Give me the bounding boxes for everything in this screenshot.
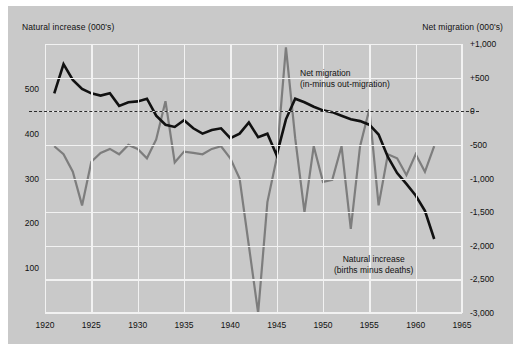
left-tick-label: 100	[11, 264, 39, 273]
gridline-vertical	[230, 44, 231, 313]
right-tick-label: -1,000	[470, 174, 494, 183]
right-tick-label: -3,000	[470, 309, 494, 318]
gridline-vertical	[416, 44, 417, 313]
gridline-horizontal	[45, 313, 462, 314]
right-tick-label: -1,500	[470, 208, 494, 217]
right-tick-label: -2,000	[470, 242, 494, 251]
gridline-vertical	[45, 44, 46, 313]
gridline-horizontal	[45, 246, 462, 247]
x-tick-label: 1960	[406, 321, 425, 330]
gridline-horizontal	[45, 212, 462, 213]
left-axis-title: Natural increase (000's)	[22, 22, 114, 32]
annotation-natural-increase-line1: Natural increase	[334, 254, 413, 265]
annotation-natural-increase: Natural increase (births minus deaths)	[334, 254, 413, 277]
x-tick-label: 1930	[128, 321, 147, 330]
gridline-horizontal	[45, 145, 462, 146]
x-tick-label: 1965	[453, 321, 472, 330]
right-tick-label: +1,000	[470, 40, 496, 49]
annotation-net-migration-line1: Net migration	[300, 68, 390, 79]
left-tick-label: 300	[11, 174, 39, 183]
right-tick-label: +500	[470, 73, 489, 82]
right-tick-label: -2,500	[470, 275, 494, 284]
annotation-natural-increase-line2: (births minus deaths)	[334, 265, 413, 276]
gridline-vertical	[138, 44, 139, 313]
annotation-net-migration-line2: (in-minus out-migration)	[300, 79, 390, 90]
gridline-horizontal	[45, 279, 462, 280]
gridline-vertical	[91, 44, 92, 313]
x-tick-label: 1950	[314, 321, 333, 330]
gridline-horizontal	[45, 44, 462, 45]
left-tick-label: 400	[11, 129, 39, 138]
chart-page: Natural increase (000's) Net migration (…	[0, 0, 521, 350]
annotation-net-migration: Net migration (in-minus out-migration)	[300, 68, 390, 91]
zero-reference-line	[29, 111, 479, 112]
x-tick-label: 1945	[267, 321, 286, 330]
left-tick-label: 200	[11, 219, 39, 228]
x-tick-label: 1955	[360, 321, 379, 330]
chart-figure: Natural increase (000's) Net migration (…	[8, 6, 513, 344]
gridline-vertical	[462, 44, 463, 313]
right-tick-label: 0	[470, 107, 475, 116]
gridline-horizontal	[45, 179, 462, 180]
gridline-vertical	[184, 44, 185, 313]
x-tick-label: 1940	[221, 321, 240, 330]
left-tick-label: 500	[11, 85, 39, 94]
right-axis-title: Net migration (000's)	[422, 22, 503, 32]
x-tick-label: 1920	[36, 321, 55, 330]
right-tick-label: -500	[470, 141, 487, 150]
gridline-horizontal	[45, 78, 462, 79]
gridline-vertical	[277, 44, 278, 313]
x-tick-label: 1925	[82, 321, 101, 330]
x-tick-label: 1935	[175, 321, 194, 330]
